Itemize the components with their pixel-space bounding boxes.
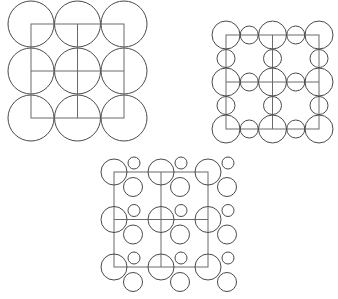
panel-circles-with-satellites [101, 157, 237, 292]
small-circle [128, 157, 140, 169]
panel-big-and-small-circles [212, 21, 333, 143]
panel-big-circles [8, 1, 147, 141]
medium-circle [171, 273, 190, 292]
medium-circle [171, 225, 190, 244]
medium-circle [124, 273, 143, 292]
medium-circle [124, 225, 143, 244]
small-circle [222, 205, 234, 217]
medium-circle [218, 225, 237, 244]
small-circle [128, 252, 140, 264]
medium-circle [124, 178, 143, 197]
medium-circle [218, 178, 237, 197]
small-circle [175, 205, 187, 217]
small-circle [175, 252, 187, 264]
small-circle [222, 252, 234, 264]
small-circle [175, 157, 187, 169]
circle-packing-diagram [0, 0, 338, 299]
diagram-canvas [0, 0, 338, 299]
medium-circle [218, 273, 237, 292]
small-circle [222, 157, 234, 169]
medium-circle [171, 178, 190, 197]
small-circle [128, 205, 140, 217]
